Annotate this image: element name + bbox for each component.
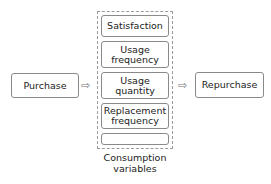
variable-replacement-frequency: Replacement frequency [101,103,169,129]
variable-availability [101,133,169,145]
purchase-label: Purchase [23,81,66,91]
repurchase-box: Repurchase [195,72,264,98]
repurchase-label: Repurchase [202,80,258,90]
arrow-right-icon: ⇨ [178,80,187,91]
variable-usage-quantity: Usage quantity [101,72,169,99]
variable-usage-frequency: Usage frequency [101,41,169,68]
variable-satisfaction: Satisfaction [101,15,169,37]
group-caption: Consumption variables [90,152,180,174]
purchase-box: Purchase [11,73,79,98]
arrow-right-icon: ⇨ [81,80,90,91]
